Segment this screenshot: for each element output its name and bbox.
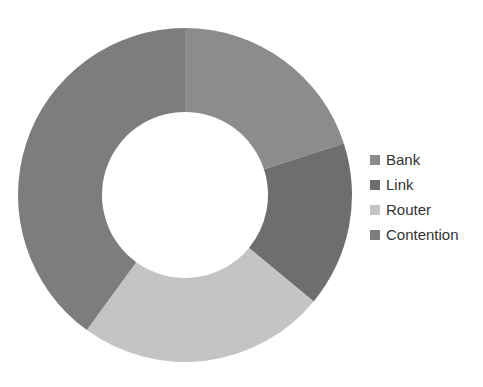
legend-item-link: Link xyxy=(370,172,459,197)
legend-item-contention: Contention xyxy=(370,222,459,247)
legend-swatch-contention xyxy=(370,230,380,240)
legend-swatch-link xyxy=(370,180,380,190)
legend-label: Router xyxy=(386,201,431,218)
donut-slice-bank xyxy=(185,28,344,169)
legend-swatch-bank xyxy=(370,155,380,165)
legend-label: Bank xyxy=(386,151,420,168)
legend-item-router: Router xyxy=(370,197,459,222)
legend: Bank Link Router Contention xyxy=(370,147,459,247)
donut-chart xyxy=(0,0,370,387)
legend-label: Contention xyxy=(386,226,459,243)
legend-item-bank: Bank xyxy=(370,147,459,172)
legend-swatch-router xyxy=(370,205,380,215)
legend-label: Link xyxy=(386,176,414,193)
